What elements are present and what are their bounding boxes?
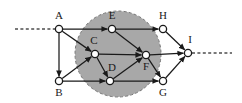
node-f[interactable] xyxy=(142,51,149,58)
node-a[interactable] xyxy=(55,25,62,32)
node-label-a: A xyxy=(55,9,63,21)
graph-figure: ABCDEFGHI xyxy=(0,0,242,103)
node-h[interactable] xyxy=(159,25,166,32)
node-label-g: G xyxy=(159,86,167,98)
graph-canvas: ABCDEFGHI xyxy=(0,0,242,103)
node-e[interactable] xyxy=(108,25,115,32)
node-i[interactable] xyxy=(184,49,191,56)
edge-c-to-f xyxy=(99,54,141,55)
node-b[interactable] xyxy=(55,77,62,84)
node-label-c: C xyxy=(90,34,97,46)
node-label-e: E xyxy=(109,9,116,21)
node-label-h: H xyxy=(159,9,167,21)
edge-h-to-i xyxy=(166,32,185,50)
edge-g-to-i xyxy=(166,56,185,78)
node-c[interactable] xyxy=(91,50,98,57)
node-label-b: B xyxy=(55,86,62,98)
node-d[interactable] xyxy=(106,77,113,84)
node-label-d: D xyxy=(108,61,116,73)
node-g[interactable] xyxy=(159,77,166,84)
node-label-i: I xyxy=(188,33,192,45)
node-label-f: F xyxy=(143,60,149,72)
